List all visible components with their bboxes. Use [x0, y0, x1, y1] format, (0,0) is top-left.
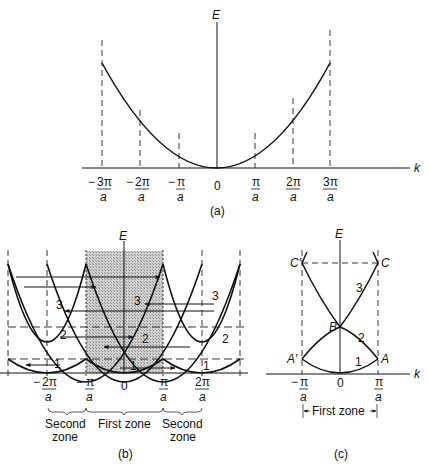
svg-text:a: a: [375, 390, 382, 404]
svg-text:−: −: [168, 175, 175, 189]
svg-text:a: a: [100, 190, 107, 204]
band-labels-c: 1 2 3: [355, 281, 365, 369]
svg-text:π: π: [86, 375, 94, 389]
svg-text:a: a: [138, 190, 145, 204]
svg-text:3: 3: [134, 294, 141, 308]
k-label-a: k: [414, 161, 421, 175]
svg-text:a: a: [177, 190, 184, 204]
svg-text:A′: A′: [286, 352, 298, 366]
svg-text:1: 1: [130, 359, 137, 373]
svg-text:2π: 2π: [195, 375, 210, 389]
band-diagram-figure: E k − 3π a − 2π a − π a: [0, 0, 429, 467]
svg-text:Second: Second: [45, 417, 86, 431]
svg-text:2π: 2π: [286, 175, 301, 189]
svg-text:a: a: [327, 190, 334, 204]
svg-text:1: 1: [54, 357, 61, 371]
zone-boundaries-a: [102, 30, 330, 168]
k-label-c: k: [414, 367, 421, 381]
svg-text:0: 0: [214, 179, 221, 193]
svg-text:−: −: [33, 375, 40, 389]
svg-text:zone: zone: [52, 430, 78, 444]
svg-text:π: π: [252, 175, 260, 189]
svg-text:a: a: [160, 390, 167, 404]
svg-text:π: π: [375, 375, 383, 389]
svg-text:2: 2: [60, 328, 67, 342]
svg-text:3π: 3π: [97, 175, 112, 189]
free-electron-parabola: [102, 63, 330, 168]
svg-text:a: a: [290, 190, 297, 204]
svg-text:First zone: First zone: [312, 404, 365, 418]
svg-text:2: 2: [358, 331, 365, 345]
svg-text:1: 1: [203, 359, 210, 373]
panel-c: E k A A′ B C C′ 1: [266, 227, 421, 461]
svg-text:π: π: [160, 375, 168, 389]
zone-labels-b: Second zone First zone Second zone: [45, 417, 203, 444]
svg-text:−: −: [126, 175, 133, 189]
svg-text:3: 3: [356, 281, 363, 295]
svg-text:C: C: [381, 256, 390, 270]
panel-b: E: [0, 229, 248, 461]
svg-text:First zone: First zone: [98, 417, 151, 431]
svg-text:2: 2: [222, 332, 229, 346]
zone-braces-b: [48, 408, 202, 415]
e-label-c: E: [335, 227, 344, 241]
svg-text:zone: zone: [170, 430, 196, 444]
svg-text:1: 1: [355, 355, 362, 369]
svg-text:−: −: [88, 175, 95, 189]
tick-labels-a: − 3π a − 2π a − π a 0 π a 2π a 3π a: [88, 175, 338, 204]
svg-text:B: B: [329, 320, 337, 334]
svg-text:−: −: [291, 375, 298, 389]
svg-text:Second: Second: [162, 417, 203, 431]
svg-text:a: a: [252, 190, 259, 204]
svg-text:0: 0: [121, 379, 128, 393]
caption-b: (b): [118, 447, 133, 461]
svg-text:3: 3: [212, 289, 219, 303]
svg-text:a: a: [45, 390, 52, 404]
caption-c: (c): [334, 447, 348, 461]
svg-text:2: 2: [142, 332, 149, 346]
panel-a: E k − 3π a − 2π a − π a: [82, 8, 421, 218]
caption-a: (a): [210, 204, 225, 218]
svg-text:a: a: [86, 390, 93, 404]
svg-text:2π: 2π: [42, 375, 57, 389]
svg-text:C′: C′: [290, 256, 302, 270]
tick-labels-c: − π a 0 π a: [291, 375, 383, 404]
svg-text:π: π: [177, 175, 185, 189]
svg-text:a: a: [300, 390, 307, 404]
svg-text:−: −: [76, 375, 83, 389]
svg-text:π: π: [300, 375, 308, 389]
svg-text:A: A: [380, 352, 389, 366]
svg-text:2π: 2π: [135, 175, 150, 189]
svg-text:a: a: [199, 390, 206, 404]
svg-text:0: 0: [337, 376, 344, 390]
e-label-b: E: [119, 229, 128, 243]
e-label-a: E: [212, 8, 221, 22]
svg-text:3: 3: [56, 298, 63, 312]
first-zone-bracket-c: First zone: [303, 404, 377, 418]
tick-labels-b: − 2π a − π a 0 π a 2π a: [33, 375, 210, 404]
svg-text:3π: 3π: [323, 175, 338, 189]
